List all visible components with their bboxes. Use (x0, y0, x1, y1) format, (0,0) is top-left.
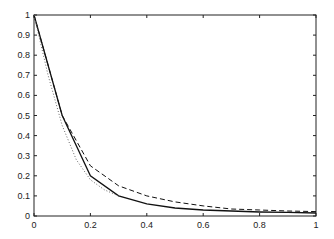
y-tick-label: 1 (25, 10, 30, 20)
y-tick-label: 0.9 (17, 30, 30, 40)
axes-frame (34, 15, 316, 216)
series-dashed-line (34, 15, 316, 212)
series-solid-line (34, 15, 316, 213)
x-tick-label: 0.8 (253, 220, 266, 230)
y-tick-label: 0.8 (17, 50, 30, 60)
x-tick-label: 0.6 (197, 220, 210, 230)
data-series (34, 15, 316, 213)
x-tick-label: 0.4 (141, 220, 154, 230)
y-tick-label: 0.5 (17, 111, 30, 121)
y-tick-label: 0.3 (17, 151, 30, 161)
plot-border (34, 15, 316, 216)
y-tick-label: 0.2 (17, 171, 30, 181)
y-tick-label: 0 (25, 211, 30, 221)
x-tick-label: 0.2 (84, 220, 97, 230)
axis-ticks: 00.20.40.60.8100.10.20.30.40.50.60.70.80… (17, 10, 318, 230)
x-tick-label: 1 (313, 220, 318, 230)
series-dotted-line (34, 15, 119, 196)
x-tick-label: 0 (31, 220, 36, 230)
line-chart: 00.20.40.60.8100.10.20.30.40.50.60.70.80… (0, 0, 334, 239)
y-tick-label: 0.7 (17, 70, 30, 80)
y-tick-label: 0.1 (17, 191, 30, 201)
y-tick-label: 0.4 (17, 131, 30, 141)
y-tick-label: 0.6 (17, 90, 30, 100)
